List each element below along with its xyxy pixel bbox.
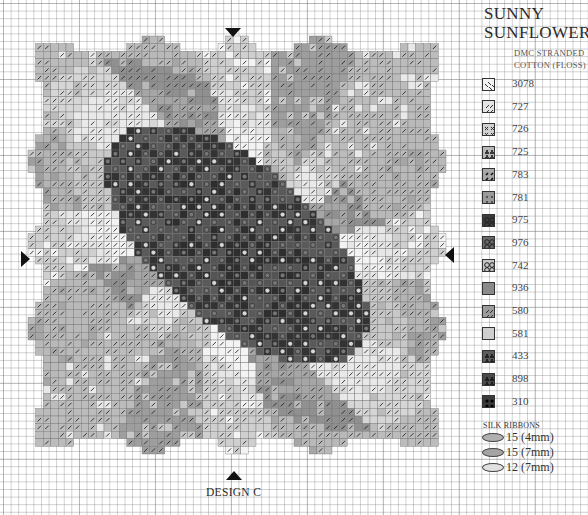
pattern-title: SUNNY SUNFLOWERS	[484, 4, 588, 42]
legend-item: 726	[482, 121, 495, 137]
floss-code: 581	[512, 327, 529, 339]
center-marker-right-icon	[445, 247, 454, 263]
floss-swatch-icon	[482, 168, 495, 181]
floss-swatch-icon	[482, 327, 495, 340]
floss-swatch-icon	[482, 236, 495, 249]
floss-code: 725	[512, 145, 529, 157]
ribbon-label: 15 (4mm)	[506, 430, 554, 445]
center-marker-left-icon	[21, 251, 30, 267]
floss-swatch-icon	[482, 395, 495, 408]
floss-swatch-icon	[482, 259, 495, 272]
subtitle-line-2: COTTON (FLOSS)	[514, 59, 586, 71]
ribbon-leaf-icon	[482, 448, 504, 457]
floss-code: 3078	[512, 77, 534, 89]
floss-code: 975	[512, 213, 529, 225]
floss-swatch-icon	[482, 78, 495, 91]
floss-swatch-icon	[482, 146, 495, 159]
floss-code: 783	[512, 168, 529, 180]
floss-code: 727	[512, 100, 529, 112]
title-line-2: SUNFLOWERS	[484, 23, 588, 42]
ribbon-label: 12 (7mm)	[506, 460, 554, 475]
legend-item: 581	[482, 326, 495, 342]
floss-code: 310	[512, 395, 529, 407]
legend-item: 727	[482, 99, 495, 115]
ribbon-label: 15 (7mm)	[506, 445, 554, 460]
legend-item: 936	[482, 280, 495, 296]
design-label: DESIGN C	[206, 486, 261, 498]
floss-swatch-icon	[482, 305, 495, 318]
legend-item: 725	[482, 144, 495, 160]
floss-swatch-icon	[482, 100, 495, 113]
legend-subtitle: DMC STRANDED COTTON (FLOSS)	[514, 47, 586, 71]
ribbon-leaf-icon	[482, 433, 504, 442]
floss-swatch-icon	[482, 214, 495, 227]
legend-item: 310	[482, 394, 495, 410]
floss-swatch-icon	[482, 123, 495, 136]
legend-item: 898	[482, 371, 495, 387]
floss-code: 898	[512, 372, 529, 384]
legend-item: 975	[482, 212, 495, 228]
center-marker-top-icon	[225, 28, 241, 37]
floss-code: 936	[512, 281, 529, 293]
floss-swatch-icon	[482, 191, 495, 204]
legend-item: 781	[482, 190, 495, 206]
ribbon-leaf-icon	[482, 463, 504, 472]
center-marker-bottom-icon	[226, 471, 242, 480]
silk-ribbons-heading: SILK RIBBONS	[483, 421, 540, 430]
floss-code: 742	[512, 259, 529, 271]
legend-item: 3078	[482, 76, 495, 92]
legend-item: 976	[482, 235, 495, 251]
title-line-1: SUNNY	[484, 4, 588, 23]
floss-code: 580	[512, 304, 529, 316]
legend-item: 433	[482, 348, 495, 364]
floss-swatch-icon	[482, 350, 495, 363]
floss-code: 433	[512, 349, 529, 361]
floss-swatch-icon	[482, 282, 495, 295]
subtitle-line-1: DMC STRANDED	[514, 47, 586, 59]
floss-swatch-icon	[482, 373, 495, 386]
legend-item: 783	[482, 167, 495, 183]
floss-code: 781	[512, 191, 529, 203]
floss-code: 976	[512, 236, 529, 248]
legend-item: 742	[482, 258, 495, 274]
legend-item: 580	[482, 303, 495, 319]
floss-code: 726	[512, 122, 529, 134]
